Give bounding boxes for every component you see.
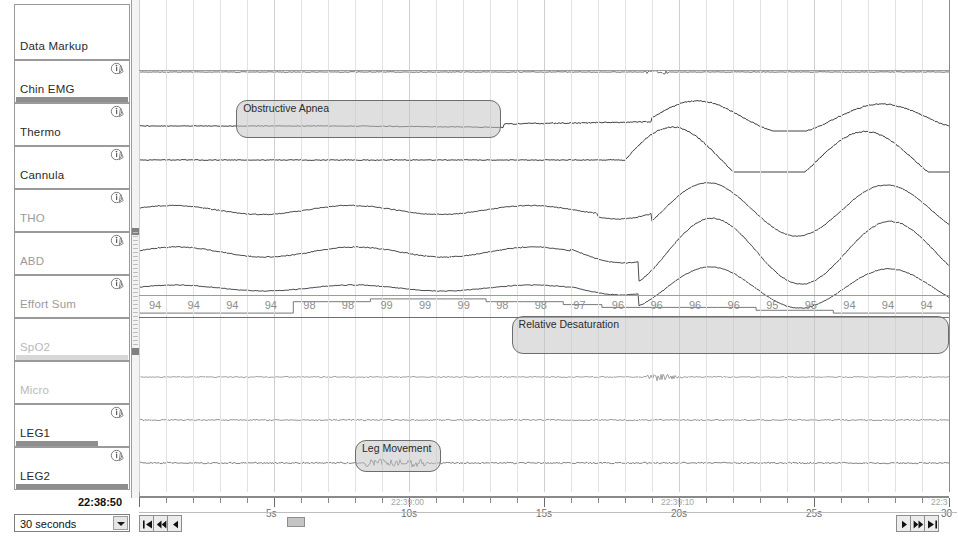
- channel-row-chin-emg[interactable]: Chin EMG: [14, 60, 130, 103]
- scroll-tick: [133, 244, 138, 245]
- event-obstructive-apnea[interactable]: Obstructive Apnea: [236, 100, 501, 138]
- channel-label: Thermo: [20, 126, 61, 138]
- scroll-knob-lower[interactable]: [132, 348, 139, 355]
- grid-line: [517, 0, 518, 492]
- info-icon[interactable]: [109, 62, 126, 79]
- grid-line: [922, 0, 923, 492]
- channel-label: LEG2: [20, 470, 50, 482]
- scroll-tick: [133, 344, 138, 345]
- scroll-tick: [133, 260, 138, 261]
- axis-tick: [814, 498, 815, 507]
- info-icon[interactable]: [109, 234, 126, 251]
- nav-buttons-right[interactable]: [896, 515, 943, 532]
- channel-row-leg2[interactable]: LEG2: [14, 447, 130, 490]
- scroll-tick: [133, 252, 138, 253]
- go-to-start-button[interactable]: [139, 515, 154, 532]
- scroll-tick: [133, 316, 138, 317]
- step-forward-button[interactable]: [896, 515, 911, 532]
- axis-tick: [274, 498, 275, 507]
- grid-line: [706, 0, 707, 492]
- grid-line: [787, 0, 788, 492]
- axis-tick: [463, 498, 464, 503]
- channel-label: SpO2: [20, 341, 50, 353]
- channel-row-thermo[interactable]: Thermo: [14, 103, 130, 146]
- scroll-tick: [133, 288, 138, 289]
- channel-row-abd[interactable]: ABD: [14, 232, 130, 275]
- channel-row-data-markup[interactable]: Data Markup: [14, 4, 130, 60]
- channel-row-effort-sum[interactable]: Effort Sum: [14, 275, 130, 318]
- axis-tick: [841, 498, 842, 503]
- axis-tick: [652, 498, 653, 503]
- channel-scrollbar[interactable]: [16, 355, 128, 360]
- epoch-length-select[interactable]: 30 seconds: [14, 514, 130, 532]
- grid-line: [247, 0, 248, 492]
- axis-tick: [301, 498, 302, 503]
- scroll-tick: [133, 308, 138, 309]
- spo2-value: 95: [766, 299, 778, 311]
- scroll-tick: [133, 280, 138, 281]
- grid-line: [139, 0, 140, 492]
- grid-line: [814, 0, 815, 492]
- grid-line: [328, 0, 329, 492]
- scroll-tick: [133, 300, 138, 301]
- info-icon[interactable]: [109, 191, 126, 208]
- info-icon[interactable]: [109, 449, 126, 466]
- horizontal-scroll-thumb[interactable]: [287, 517, 305, 527]
- spo2-value: 96: [650, 299, 662, 311]
- axis-timestamp: 22:39:10: [661, 497, 694, 507]
- grid-line: [625, 0, 626, 492]
- axis-tick: [868, 498, 869, 503]
- info-icon[interactable]: [109, 277, 126, 294]
- event-relative-desaturation[interactable]: Relative Desaturation: [512, 316, 949, 354]
- axis-timestamp: 22:3: [931, 497, 948, 507]
- channel-label-panel: Data MarkupChin EMGThermoCannulaTHOABDEf…: [14, 4, 130, 496]
- step-back-button[interactable]: [167, 515, 182, 532]
- rewind-button[interactable]: [153, 515, 168, 532]
- grid-line: [895, 0, 896, 492]
- axis-tick: [328, 498, 329, 503]
- info-icon[interactable]: [109, 148, 126, 165]
- info-icon[interactable]: [109, 406, 126, 423]
- signal-chart-area[interactable]: [139, 0, 950, 492]
- channel-label: ABD: [20, 255, 44, 267]
- time-axis: 5s10s22:39:0015s20s22:39:1025s3022:3: [139, 492, 957, 522]
- axis-tick-label: 20s: [671, 508, 687, 519]
- event-leg-movement[interactable]: Leg Movement: [355, 440, 441, 472]
- grid-line: [571, 0, 572, 492]
- spo2-value: 98: [535, 299, 547, 311]
- spo2-value: 97: [573, 299, 585, 311]
- channel-label: Chin EMG: [20, 83, 75, 95]
- channel-label: Micro: [20, 384, 49, 396]
- scroll-tick: [133, 236, 138, 237]
- footer-divider: [139, 512, 957, 513]
- channel-row-cannula[interactable]: Cannula: [14, 146, 130, 189]
- channel-scrollbar[interactable]: [16, 441, 98, 446]
- axis-tick: [706, 498, 707, 503]
- channel-row-spo2[interactable]: SpO2: [14, 318, 130, 361]
- channel-scrollbar[interactable]: [16, 484, 128, 489]
- axis-tick-label: 25s: [806, 508, 822, 519]
- channel-row-micro[interactable]: Micro: [14, 361, 130, 404]
- axis-tick: [436, 498, 437, 503]
- axis-tick-label: 15s: [536, 508, 552, 519]
- spo2-value: 94: [920, 299, 932, 311]
- axis-tick: [733, 498, 734, 503]
- channel-row-leg1[interactable]: LEG1: [14, 404, 130, 447]
- chevron-down-icon[interactable]: [113, 516, 128, 530]
- info-icon[interactable]: [109, 105, 126, 122]
- spo2-value: 98: [496, 299, 508, 311]
- channel-scrollbar[interactable]: [16, 97, 128, 102]
- nav-buttons-left[interactable]: [139, 515, 186, 532]
- channel-row-tho[interactable]: THO: [14, 189, 130, 232]
- scroll-tick: [133, 276, 138, 277]
- go-to-end-button[interactable]: [924, 515, 939, 532]
- fast-forward-button[interactable]: [910, 515, 925, 532]
- epoch-length-value: 30 seconds: [20, 518, 76, 530]
- axis-tick: [949, 498, 950, 507]
- axis-tick: [193, 498, 194, 503]
- scroll-tick: [133, 232, 138, 233]
- grid-line: [652, 0, 653, 492]
- grid-line: [274, 0, 275, 492]
- event-label: Obstructive Apnea: [243, 102, 329, 114]
- axis-tick-label: 10s: [401, 508, 417, 519]
